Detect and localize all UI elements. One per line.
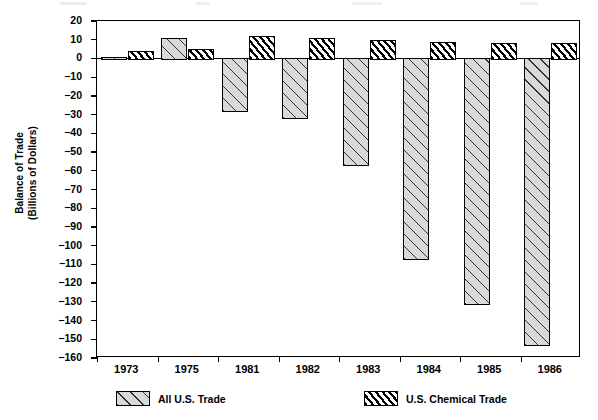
bar-us-chemical-trade-1981 xyxy=(249,36,275,60)
y-axis-tick-label: 20 xyxy=(36,15,82,25)
scan-artifact xyxy=(352,2,382,5)
bar-us-chemical-trade-1984 xyxy=(430,42,456,60)
y-axis-tick xyxy=(91,77,97,78)
chart-legend: All U.S. TradeU.S. Chemical Trade xyxy=(96,391,580,413)
y-axis-tick xyxy=(91,264,97,265)
bar-all-us-trade-1981 xyxy=(222,58,248,112)
x-axis-label-1981: 1981 xyxy=(235,363,259,375)
bar-all-us-trade-1975 xyxy=(161,38,187,60)
x-axis-label-1986: 1986 xyxy=(538,363,562,375)
bar-all-us-trade-1985 xyxy=(464,58,490,305)
y-axis-tick-label: −70 xyxy=(36,184,82,194)
y-axis-tick-label: −80 xyxy=(36,202,82,212)
y-axis-tick-label: −30 xyxy=(36,109,82,119)
y-axis-tick xyxy=(91,114,97,115)
bar-all-us-trade-1982 xyxy=(282,58,308,120)
legend-label: U.S. Chemical Trade xyxy=(406,393,507,405)
x-axis-tick xyxy=(521,356,522,362)
x-axis-tick xyxy=(218,356,219,362)
x-axis-tick xyxy=(400,356,401,362)
legend-swatch-icon xyxy=(364,391,398,406)
y-axis-tick xyxy=(91,320,97,321)
bar-us-chemical-trade-1986 xyxy=(551,43,577,60)
scan-artifact xyxy=(196,2,210,5)
y-axis-tick xyxy=(91,208,97,209)
y-axis-tick xyxy=(91,189,97,190)
scan-artifact xyxy=(520,2,538,5)
x-axis-label-1973: 1973 xyxy=(114,363,138,375)
x-axis-label-1975: 1975 xyxy=(175,363,199,375)
legend-swatch-icon xyxy=(116,391,150,406)
bar-us-chemical-trade-1973 xyxy=(128,51,154,60)
y-axis-tick-label: −120 xyxy=(36,277,82,287)
x-axis-tick-labels: 19731975198119821983198419851986 xyxy=(96,363,580,383)
y-axis-tick-label: −50 xyxy=(36,146,82,156)
x-axis-tick xyxy=(279,356,280,362)
y-axis-title-line-1: Balance of Trade xyxy=(13,73,26,273)
bar-all-us-trade-1984 xyxy=(403,58,429,260)
y-axis-tick xyxy=(91,245,97,246)
bar-us-chemical-trade-1985 xyxy=(491,43,517,60)
y-axis-tick xyxy=(91,282,97,283)
y-axis-tick-label: −60 xyxy=(36,165,82,175)
y-axis-tick-label: −130 xyxy=(36,296,82,306)
y-axis-tick-label: 10 xyxy=(36,34,82,44)
y-axis-tick-label: −110 xyxy=(36,258,82,268)
x-axis-label-1983: 1983 xyxy=(356,363,380,375)
legend-item-all-us-trade[interactable]: All U.S. Trade xyxy=(116,391,226,406)
x-axis-tick xyxy=(97,356,98,362)
y-axis-tick xyxy=(91,133,97,134)
y-axis-tick xyxy=(91,339,97,340)
x-axis-tick xyxy=(339,356,340,362)
x-axis-label-1984: 1984 xyxy=(417,363,441,375)
y-axis-tick-label: −140 xyxy=(36,315,82,325)
x-axis-label-1985: 1985 xyxy=(477,363,501,375)
y-axis-tick-label: −40 xyxy=(36,127,82,137)
bar-all-us-trade-1983 xyxy=(343,58,369,166)
y-axis-tick xyxy=(91,170,97,171)
y-axis-tick xyxy=(91,58,97,59)
y-axis-tick xyxy=(91,301,97,302)
x-axis-label-1982: 1982 xyxy=(296,363,320,375)
y-axis-tick-label: −150 xyxy=(36,333,82,343)
bar-chart: Balance of Trade (Billions of Dollars) 2… xyxy=(0,0,598,420)
y-axis-tick xyxy=(91,20,97,21)
bar-us-chemical-trade-1975 xyxy=(188,49,214,60)
y-axis-tick xyxy=(91,39,97,40)
bar-us-chemical-trade-1983 xyxy=(370,40,396,60)
plot-area xyxy=(96,20,580,357)
y-axis-tick-labels: 20100−10−20−30−40−50−60−70−80−90−100−110… xyxy=(36,0,82,420)
y-axis-tick xyxy=(91,151,97,152)
legend-item-us-chemical-trade[interactable]: U.S. Chemical Trade xyxy=(364,391,507,406)
y-axis-tick-label: −90 xyxy=(36,221,82,231)
y-axis-tick-label: −100 xyxy=(36,240,82,250)
y-axis-tick-label: 0 xyxy=(36,52,82,62)
y-axis-tick-label: −20 xyxy=(36,90,82,100)
x-axis-tick xyxy=(460,356,461,362)
x-axis-tick xyxy=(158,356,159,362)
y-axis-tick-label: −160 xyxy=(36,352,82,362)
bar-all-us-trade-1973 xyxy=(101,57,127,60)
y-axis-tick-label: −10 xyxy=(36,71,82,81)
bar-all-us-trade-1986 xyxy=(524,58,550,346)
bar-us-chemical-trade-1982 xyxy=(309,38,335,60)
y-axis-tick xyxy=(91,95,97,96)
y-axis-tick xyxy=(91,226,97,227)
legend-label: All U.S. Trade xyxy=(158,393,226,405)
